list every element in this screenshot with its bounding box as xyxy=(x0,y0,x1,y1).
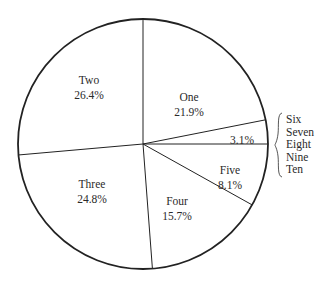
slice-label-small: 3.1% xyxy=(230,133,254,148)
slice-label-one: One 21.9% xyxy=(174,90,204,120)
slice-name-four: Four xyxy=(162,194,192,209)
group-label-ten: Ten xyxy=(286,163,314,176)
group-label-seven: Seven xyxy=(286,126,314,139)
slice-name-one: One xyxy=(174,90,204,105)
slice-label-four: Four 15.7% xyxy=(162,194,192,224)
slice-label-two: Two 26.4% xyxy=(74,73,104,103)
slice-pct-small: 3.1% xyxy=(230,133,254,148)
slice-name-five: Five xyxy=(218,163,242,178)
slice-pct-three: 24.8% xyxy=(77,192,107,207)
grouped-slice-labels: Six Seven Eight Nine Ten xyxy=(286,113,314,176)
group-label-six: Six xyxy=(286,113,314,126)
slice-pct-five: 8.1% xyxy=(218,178,242,193)
group-label-nine: Nine xyxy=(286,151,314,164)
slice-name-two: Two xyxy=(74,73,104,88)
slice-pct-four: 15.7% xyxy=(162,209,192,224)
slice-pct-two: 26.4% xyxy=(74,88,104,103)
group-label-eight: Eight xyxy=(286,138,314,151)
slice-label-three: Three 24.8% xyxy=(77,177,107,207)
slice-pct-one: 21.9% xyxy=(174,105,204,120)
brace-icon xyxy=(274,112,284,178)
slice-label-five: Five 8.1% xyxy=(218,163,242,193)
slice-name-three: Three xyxy=(77,177,107,192)
